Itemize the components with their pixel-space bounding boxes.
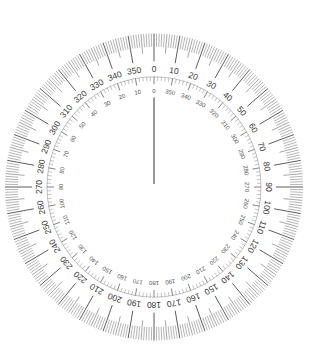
outer-major-tick	[103, 43, 112, 69]
inner-minor-tick	[125, 81, 126, 85]
outer-minor-tick	[230, 60, 237, 71]
outer-minor-tick	[144, 327, 145, 340]
outer-minor-tick	[22, 253, 33, 259]
inner-scale-label: 70	[62, 149, 70, 158]
outer-minor-tick	[220, 310, 226, 322]
outer-mid-tick	[188, 39, 193, 58]
inner-minor-tick	[235, 252, 238, 255]
outer-mid-tick	[10, 147, 28, 152]
inner-scale-label: 260	[242, 198, 250, 210]
outer-minor-tick	[5, 176, 18, 177]
outer-mid-tick	[141, 320, 143, 339]
outer-minor-tick	[228, 58, 235, 69]
inner-major-tick	[135, 78, 136, 85]
outer-mid-tick	[284, 199, 303, 201]
inner-minor-tick	[52, 153, 56, 154]
inner-minor-tick	[215, 273, 217, 276]
inner-minor-tick	[215, 98, 217, 101]
inner-major-tick	[204, 92, 208, 98]
outer-minor-tick	[123, 324, 126, 337]
outer-minor-tick	[6, 202, 19, 203]
inner-minor-tick	[256, 172, 260, 173]
outer-mid-tick	[260, 264, 276, 275]
inner-minor-tick	[88, 100, 90, 103]
inner-minor-tick	[256, 202, 260, 203]
outer-minor-tick	[273, 255, 284, 261]
inner-minor-tick	[226, 263, 229, 266]
outer-major-tick	[7, 160, 34, 165]
inner-minor-tick	[63, 129, 66, 131]
inner-minor-tick	[239, 246, 242, 248]
outer-scale-label: 130	[233, 254, 250, 272]
outer-minor-tick	[8, 214, 21, 217]
outer-minor-tick	[26, 259, 37, 266]
inner-minor-tick	[168, 292, 169, 296]
inner-major-tick	[241, 239, 247, 243]
inner-minor-tick	[249, 146, 253, 148]
outer-minor-tick	[287, 219, 300, 222]
outer-minor-tick	[8, 216, 21, 219]
inner-scale-label: 280	[242, 165, 250, 177]
inner-minor-tick	[245, 237, 249, 239]
outer-minor-tick	[175, 35, 177, 48]
outer-minor-tick	[84, 311, 90, 323]
outer-major-tick	[196, 305, 205, 331]
outer-minor-tick	[86, 50, 92, 62]
outer-major-tick	[14, 135, 39, 145]
outer-minor-tick	[29, 103, 40, 110]
outer-minor-tick	[126, 36, 128, 49]
outer-minor-tick	[278, 244, 290, 249]
outer-minor-tick	[144, 34, 145, 47]
outer-minor-tick	[98, 45, 103, 57]
outer-major-tick	[80, 296, 94, 320]
inner-major-tick	[248, 222, 255, 224]
inner-minor-tick	[70, 252, 73, 255]
inner-major-tick	[252, 168, 259, 169]
inner-major-tick	[241, 132, 247, 136]
outer-minor-tick	[133, 35, 135, 48]
inner-minor-tick	[110, 284, 112, 288]
inner-major-tick	[72, 116, 77, 121]
outer-minor-tick	[35, 271, 45, 279]
inner-scale-label: 290	[237, 148, 246, 160]
inner-scale-label: 80	[58, 166, 65, 174]
inner-minor-tick	[114, 85, 115, 89]
outer-minor-tick	[182, 324, 185, 337]
outer-minor-tick	[271, 259, 282, 266]
inner-minor-tick	[249, 227, 253, 229]
inner-minor-tick	[202, 281, 204, 285]
outer-scale-label: 320	[72, 88, 90, 105]
outer-minor-tick	[77, 307, 84, 318]
outer-major-tick	[7, 209, 34, 214]
inner-minor-tick	[168, 78, 169, 82]
outer-scale-label: 160	[185, 291, 202, 305]
inner-major-tick	[171, 78, 172, 85]
inner-minor-tick	[254, 213, 258, 214]
outer-minor-tick	[185, 323, 188, 336]
outer-minor-tick	[269, 106, 280, 113]
outer-minor-tick	[236, 299, 244, 310]
outer-minor-tick	[275, 117, 287, 123]
outer-minor-tick	[267, 265, 278, 272]
inner-major-tick	[61, 239, 67, 243]
inner-scale-label: 50	[78, 120, 87, 129]
outer-minor-tick	[185, 37, 188, 50]
outer-minor-tick	[93, 315, 98, 327]
outer-minor-tick	[64, 299, 72, 310]
outer-scale-label: 170	[166, 297, 182, 309]
inner-minor-tick	[60, 135, 64, 137]
outer-minor-tick	[236, 64, 244, 75]
outer-minor-tick	[9, 219, 22, 222]
inner-minor-tick	[51, 157, 55, 158]
inner-scale-label: 100	[58, 198, 66, 210]
outer-scale-label: 50	[235, 104, 249, 118]
inner-scale-label: 310	[220, 119, 231, 131]
outer-minor-tick	[290, 176, 303, 177]
outer-minor-tick	[5, 197, 18, 198]
outer-minor-tick	[226, 306, 233, 317]
inner-major-tick	[61, 132, 67, 136]
inner-minor-tick	[241, 243, 244, 245]
outer-minor-tick	[203, 44, 208, 57]
inner-minor-tick	[228, 261, 231, 264]
outer-minor-tick	[131, 35, 133, 48]
